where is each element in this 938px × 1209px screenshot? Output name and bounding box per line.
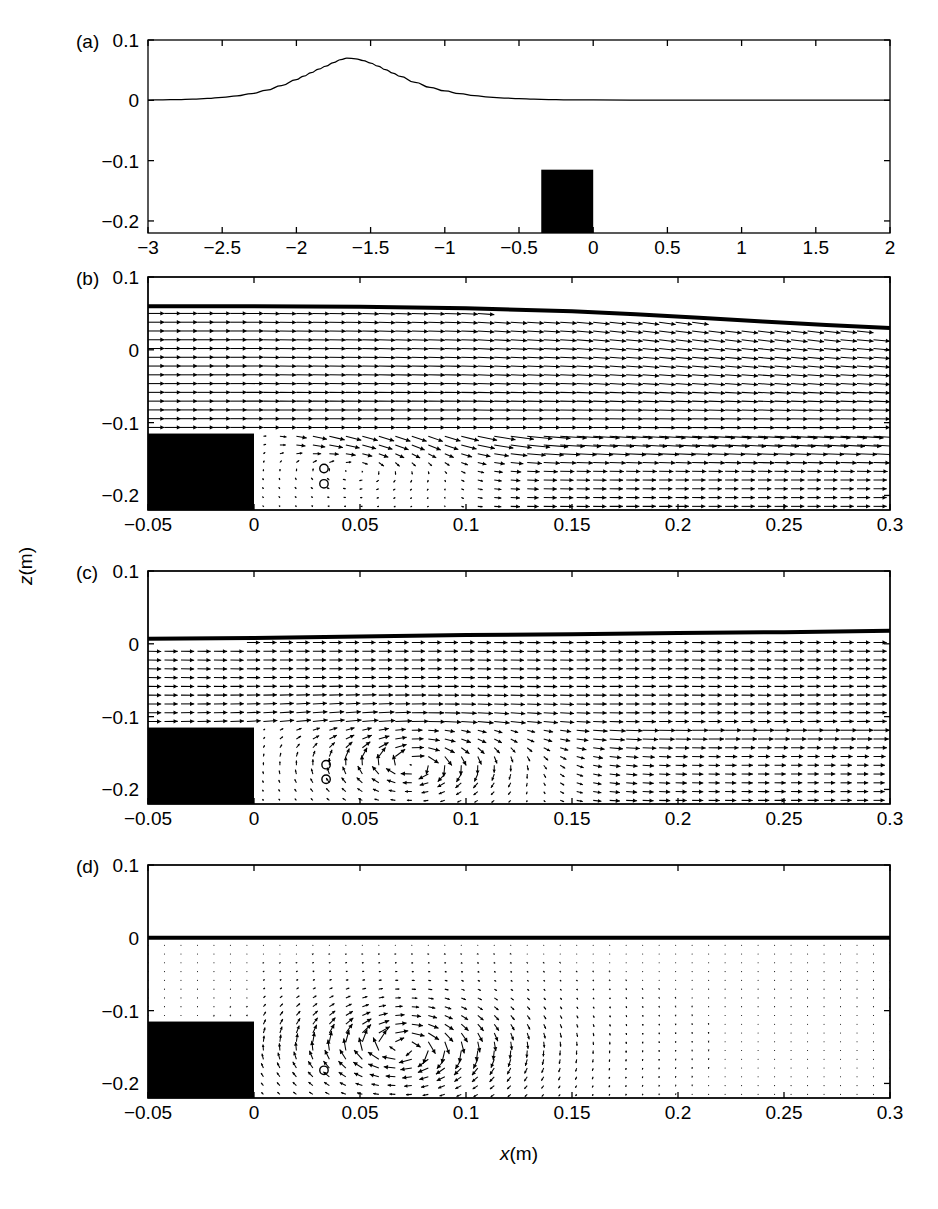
flow-vector-head: [210, 416, 214, 420]
vortex-center-marker: [320, 464, 328, 472]
flow-vector-dot: [856, 1006, 857, 1007]
flow-vector-head: [292, 329, 296, 333]
flow-vector-dot: [230, 962, 231, 963]
flow-vector-head: [338, 445, 343, 449]
flow-vector-head: [490, 446, 495, 450]
flow-vector-head: [883, 469, 887, 473]
flow-vector-head: [754, 374, 758, 378]
flow-vector-dot: [246, 954, 247, 955]
x-tick-label: 0.25: [766, 1102, 803, 1123]
flow-vector-head: [586, 658, 590, 662]
flow-vector-head: [572, 382, 576, 386]
flow-vector-head: [685, 684, 689, 688]
flow-vector-head: [882, 702, 886, 706]
flow-vector-head: [831, 763, 835, 767]
flow-vector-head: [256, 702, 260, 706]
flow-vector-head: [193, 390, 197, 394]
flow-vector-head: [256, 710, 260, 714]
flow-vector-head: [276, 338, 280, 342]
flow-vector-head: [389, 701, 393, 705]
flow-vector-head: [490, 382, 494, 386]
flow-vector-dot: [807, 989, 808, 990]
flow-vector-dot: [856, 1085, 857, 1086]
flow-vector-head: [441, 329, 445, 333]
flow-vector-head: [616, 799, 620, 803]
flow-vector-head: [655, 408, 659, 412]
flow-vector-head: [279, 761, 281, 763]
flow-vector-head: [666, 763, 670, 767]
flow-vector-head: [573, 425, 577, 429]
flow-vector-head: [732, 789, 736, 793]
flow-vector-head: [335, 452, 339, 456]
flow-vector-head: [853, 356, 857, 360]
flow-vector-head: [702, 469, 706, 473]
submerged-block: [148, 434, 254, 510]
flow-vector-head: [437, 667, 441, 671]
flow-vector-head: [765, 789, 769, 793]
flow-vector-head: [539, 321, 543, 325]
flow-vector-dot: [230, 954, 231, 955]
flow-vector-head: [861, 444, 865, 448]
plot-frame: [148, 40, 890, 233]
flow-vector-head: [835, 737, 839, 741]
flow-vector-head: [902, 364, 906, 368]
flow-vector-dot: [873, 954, 874, 955]
flow-vector-head: [405, 675, 409, 679]
flow-vector-head: [305, 658, 309, 662]
flow-vector-head: [356, 693, 360, 697]
flow-vector-head: [899, 675, 903, 679]
flow-vector-dot: [807, 1050, 808, 1051]
flow-vector-head: [767, 702, 771, 706]
flow-vector-head: [408, 347, 412, 351]
flow-vector-head: [276, 311, 280, 315]
flow-vector-head: [572, 347, 576, 351]
flow-vector-head: [787, 408, 791, 412]
flow-vector-head: [638, 408, 642, 412]
flow-vector-dot: [164, 1015, 165, 1016]
flow-vector-head: [652, 746, 656, 750]
flow-vector-head: [652, 649, 656, 653]
flow-vector-head: [902, 338, 906, 342]
flow-vector-dot: [213, 997, 214, 998]
flow-vector-dot: [856, 980, 857, 981]
flow-vector-head: [902, 408, 906, 412]
flow-vector-dot: [180, 971, 181, 972]
flow-vector-head: [210, 355, 214, 359]
flow-vector-head: [836, 728, 840, 732]
flow-vector-head: [309, 311, 313, 315]
flow-vector-head: [556, 338, 560, 342]
flow-vector-head: [800, 667, 804, 671]
flow-vector-head: [490, 338, 494, 342]
flow-vector-head: [652, 675, 656, 679]
flow-vector-dot: [774, 945, 775, 946]
flow-vector-dot: [774, 1041, 775, 1042]
flow-vector-head: [309, 346, 313, 350]
flow-vector-head: [582, 747, 586, 751]
x-tick-label: 0.1: [453, 514, 479, 535]
flow-vector-head: [853, 425, 857, 429]
flow-vector-head: [520, 658, 524, 662]
flow-vector-head: [569, 640, 573, 644]
flow-vector-dot: [692, 1094, 693, 1095]
flow-vector-head: [339, 684, 343, 688]
flow-vector-head: [537, 720, 541, 724]
flow-vector-head: [396, 971, 398, 973]
flow-vector-dot: [807, 1094, 808, 1095]
flow-vector-head: [474, 347, 478, 351]
flow-vector-head: [767, 675, 771, 679]
flow-vector-head: [490, 373, 494, 377]
flow-vector-head: [688, 461, 692, 465]
flow-vector-head: [504, 684, 508, 688]
flow-vector-head: [751, 640, 755, 644]
flow-vector-head: [836, 399, 840, 403]
flow-vector-head: [371, 658, 375, 662]
flow-vector-head: [243, 425, 247, 429]
flow-vector-dot: [642, 980, 643, 981]
flow-vector-head: [803, 728, 807, 732]
flow-vector-head: [716, 763, 720, 767]
flow-vector-head: [602, 640, 606, 644]
flow-vector-dot: [758, 1085, 759, 1086]
flow-vector-head: [226, 373, 230, 377]
flow-vector-head: [782, 754, 786, 758]
flow-vector-head: [899, 495, 903, 499]
